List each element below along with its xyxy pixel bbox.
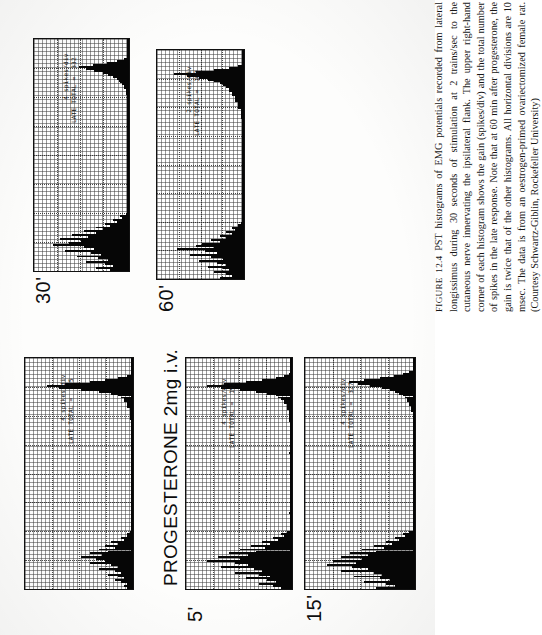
- panel-annotation-15min: 4 spikes/div LATE TOTAL = 327: [331, 378, 364, 448]
- panel-annotation-60min: 2 spikes/div LATE TOTAL = 109: [177, 66, 210, 136]
- histogram-baseline: [127, 39, 129, 271]
- histogram-baseline: [131, 358, 133, 589]
- time-label-15min: 15': [303, 594, 326, 622]
- histogram-panel-60min: 2 spikes/div LATE TOTAL = 109: [156, 49, 245, 280]
- histogram-baseline: [413, 358, 415, 589]
- histogram-baseline: [242, 50, 244, 279]
- figure-caption-label: FIGURE 12.4: [434, 256, 444, 312]
- histogram-panel-30min: 4 spikes/div LATE TOTAL = 332: [33, 38, 130, 272]
- histogram-bar: [110, 269, 129, 271]
- time-label-5min: 5': [184, 606, 207, 622]
- histogram-panel-15min: 4 spikes/div LATE TOTAL = 327: [304, 357, 416, 590]
- histogram-panel-control: 4 spikes/div LATE TOTAL = 95: [24, 357, 134, 590]
- histogram-bar: [220, 277, 244, 279]
- panel-annotation-30min: 4 spikes/div LATE TOTAL = 332: [54, 53, 87, 123]
- time-label-30min: 30': [32, 276, 55, 304]
- histogram-bar: [376, 587, 415, 589]
- figure-title: PROGESTERONE 2mg i.v.: [160, 349, 182, 586]
- figure-caption-text: PST histograms of EMG potentials recorde…: [433, 2, 540, 312]
- histogram-baseline: [290, 358, 292, 589]
- histogram-panel-5min: 4 spikes/div LATE TOTAL = 192: [185, 357, 293, 590]
- time-label-60min: 60': [155, 284, 178, 312]
- figure-caption: FIGURE 12.4 PST histograms of EMG potent…: [432, 2, 542, 312]
- panel-annotation-control: 4 spikes/div LATE TOTAL = 95: [51, 374, 84, 444]
- panel-annotation-5min: 4 spikes/div LATE TOTAL = 192: [212, 378, 245, 448]
